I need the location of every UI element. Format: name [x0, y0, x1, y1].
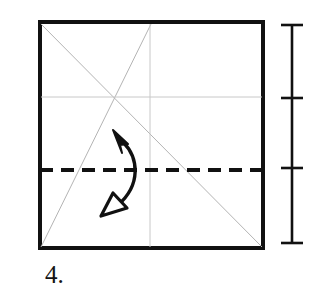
step-number-caption: 4. — [45, 261, 64, 288]
origami-diagram-figure: 4. — [0, 0, 312, 292]
diagram-canvas: 4. — [0, 0, 312, 292]
